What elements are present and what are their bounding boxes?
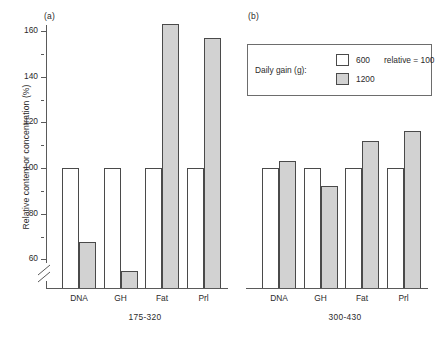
y-axis-spine bbox=[46, 25, 47, 263]
bar-175-320-GH-600 bbox=[104, 168, 121, 288]
bar-300-430-GH-600 bbox=[304, 168, 321, 288]
legend-label-600: 600 bbox=[356, 55, 370, 65]
y-minor-tick bbox=[41, 54, 44, 55]
axis-break-icon bbox=[36, 262, 54, 286]
bar-175-320-Prl-1200 bbox=[204, 38, 221, 288]
legend-swatch-600 bbox=[336, 54, 349, 66]
group-label-Fat: Fat bbox=[340, 293, 384, 303]
bar-300-430-GH-1200 bbox=[321, 186, 338, 288]
y-tick-60: 60 bbox=[16, 253, 38, 263]
bar-175-320-Fat-1200 bbox=[162, 24, 179, 288]
bar-175-320-DNA-1200 bbox=[79, 242, 96, 288]
bar-175-320-GH-1200 bbox=[121, 271, 138, 288]
legend-relative-note: relative = 100 bbox=[384, 55, 435, 65]
legend-swatch-1200 bbox=[336, 73, 349, 85]
panel-caption-a: 175-320 bbox=[100, 312, 190, 322]
panel-b-tag: (b) bbox=[248, 11, 259, 21]
group-label-DNA: DNA bbox=[57, 293, 101, 303]
panel-a-tag: (a) bbox=[44, 11, 55, 21]
y-axis-tick-labels: 6080100120140160 bbox=[12, 0, 38, 338]
y-tick-160: 160 bbox=[16, 25, 38, 35]
y-minor-tick bbox=[41, 145, 44, 146]
legend-box: Daily gain (g): 600 relative = 100 1200 bbox=[247, 44, 432, 96]
group-label-GH: GH bbox=[99, 293, 143, 303]
y-tick-120: 120 bbox=[16, 116, 38, 126]
bar-300-430-Fat-600 bbox=[345, 168, 362, 288]
x-axis-baseline bbox=[246, 288, 428, 289]
group-label-Prl: Prl bbox=[382, 293, 426, 303]
bar-175-320-DNA-600 bbox=[62, 168, 79, 288]
legend-label-1200: 1200 bbox=[356, 74, 375, 84]
bar-300-430-Fat-1200 bbox=[362, 141, 379, 288]
x-axis-baseline bbox=[46, 288, 228, 289]
bar-300-430-Prl-1200 bbox=[404, 131, 421, 288]
bar-chart-figure: (a) (b) Relative content or concentratio… bbox=[0, 0, 440, 338]
legend-title: Daily gain (g): bbox=[255, 65, 307, 75]
group-label-Fat: Fat bbox=[140, 293, 184, 303]
bar-300-430-Prl-600 bbox=[387, 168, 404, 288]
panel-caption-b: 300-430 bbox=[300, 312, 390, 322]
bar-175-320-Fat-600 bbox=[145, 168, 162, 288]
y-tick-80: 80 bbox=[16, 208, 38, 218]
y-minor-tick bbox=[41, 237, 44, 238]
group-label-DNA: DNA bbox=[257, 293, 301, 303]
bar-175-320-Prl-600 bbox=[187, 168, 204, 288]
group-label-Prl: Prl bbox=[182, 293, 226, 303]
group-label-GH: GH bbox=[299, 293, 343, 303]
y-minor-tick bbox=[41, 191, 44, 192]
y-tick-140: 140 bbox=[16, 71, 38, 81]
y-tick-100: 100 bbox=[16, 162, 38, 172]
bar-300-430-DNA-1200 bbox=[279, 161, 296, 288]
bar-300-430-DNA-600 bbox=[262, 168, 279, 288]
y-minor-tick bbox=[41, 100, 44, 101]
